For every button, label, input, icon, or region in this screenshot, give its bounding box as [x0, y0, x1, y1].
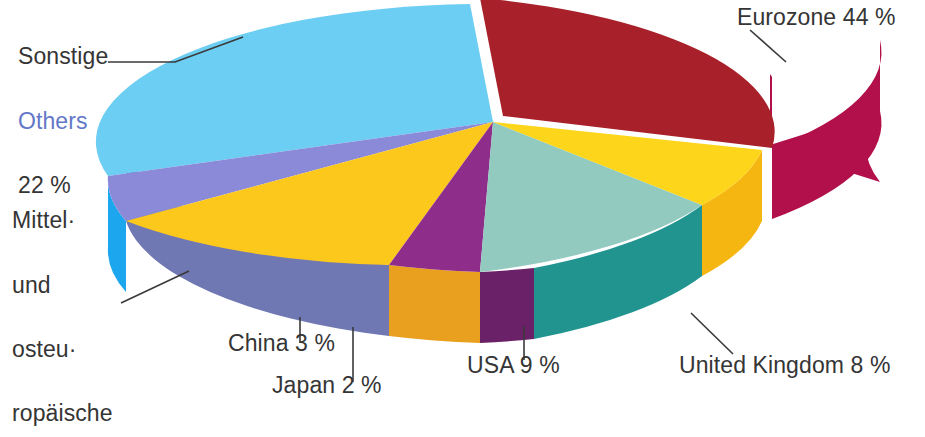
- leader-line-eurozone: [750, 30, 786, 62]
- slice-side-japan: [480, 268, 534, 343]
- slice-side-china: [389, 265, 480, 343]
- callout-uk: United Kingdom 8 %: [679, 352, 890, 379]
- slice-side-eurozone-rim: [772, 40, 882, 219]
- callout-ceec-label-de-2: und: [12, 272, 165, 299]
- callout-usa: USA 9 %: [467, 352, 560, 379]
- callout-japan: Japan 2 %: [272, 372, 382, 399]
- callout-china: China 3 %: [228, 330, 335, 357]
- callout-ceec-label-de-1: Mittel·: [12, 207, 165, 234]
- callout-eurozone: Eurozone 44 %: [737, 4, 896, 31]
- callout-others-label-en: Others: [18, 108, 108, 135]
- callout-ceec-label-de-4: ropäische: [12, 400, 165, 427]
- callout-ceec: Mittel· und osteu· ropäische Länder Midd…: [12, 170, 165, 437]
- callout-others-label-de: Sonstige: [18, 43, 108, 70]
- pie-chart-figure: Sonstige Others 22 % Mittel· und osteu· …: [0, 0, 925, 437]
- callout-ceec-label-de-3: osteu·: [12, 336, 165, 363]
- leader-line-uk: [691, 313, 733, 354]
